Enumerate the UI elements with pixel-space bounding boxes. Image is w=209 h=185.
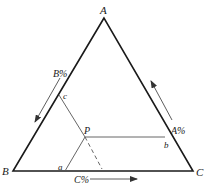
arrow-A-percent — [151, 81, 172, 120]
axis-label-B-percent: B% — [53, 68, 67, 79]
ternary-diagram: A B C P c b a B% A% C% — [0, 0, 209, 185]
point-label-P: P — [83, 125, 90, 136]
axis-label-A-percent: A% — [170, 125, 185, 136]
axis-label-C-percent: C% — [74, 174, 89, 185]
intersection-label-a: a — [58, 162, 63, 172]
line-c-to-P — [59, 95, 85, 137]
intersection-label-c: c — [63, 91, 67, 101]
vertex-label-A: A — [99, 4, 107, 16]
line-P-to-a — [65, 137, 85, 171]
vertex-label-B: B — [2, 165, 9, 177]
intersection-label-b: b — [164, 140, 169, 150]
vertex-label-C: C — [196, 166, 204, 178]
arrow-B-percent — [35, 78, 60, 122]
dashed-line-P — [85, 137, 102, 169]
